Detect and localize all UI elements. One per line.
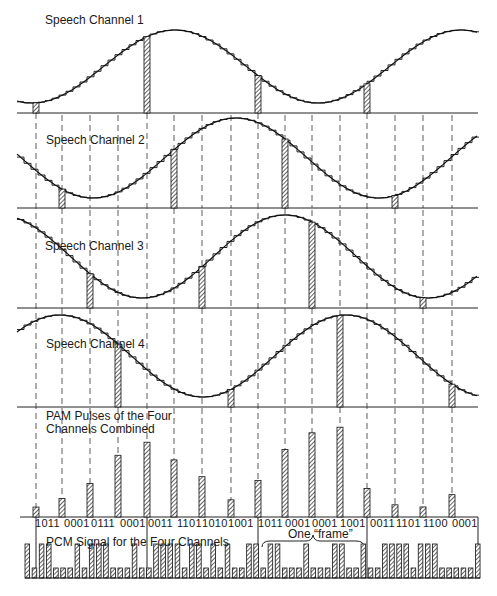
pcm-bit xyxy=(275,544,280,578)
pam-pulse xyxy=(364,488,370,517)
sample-pulse xyxy=(59,189,65,208)
sample-pulse xyxy=(449,384,455,407)
pam-pulse xyxy=(282,449,288,517)
pcm-bit xyxy=(468,568,473,578)
pcm-code-label: 1001 xyxy=(340,517,366,529)
pcm-bit xyxy=(104,544,109,578)
pcm-bit xyxy=(61,568,66,578)
pcm-bit xyxy=(404,544,409,578)
staircase-channel-3 xyxy=(17,215,479,298)
pam-pulse xyxy=(144,442,150,517)
sample-pulse xyxy=(392,196,398,208)
pcm-bit xyxy=(204,568,209,578)
pcm-bit xyxy=(139,568,144,578)
pam-pulse xyxy=(255,480,261,517)
pam-pulse xyxy=(228,500,234,517)
sample-pulse xyxy=(255,76,261,113)
pcm-code-label: 0001 xyxy=(312,517,338,529)
pcm-code-label: 1011 xyxy=(258,517,283,529)
sample-pulse xyxy=(33,103,39,113)
pcm-bit xyxy=(225,544,230,578)
pcm-bit xyxy=(218,568,223,578)
pcm-code-label: 0001 xyxy=(452,517,478,529)
pcm-bit xyxy=(297,568,302,578)
pcm-bits xyxy=(25,544,480,578)
pcm-bit xyxy=(82,568,87,578)
sample-pulse xyxy=(228,389,234,407)
pcm-bit xyxy=(340,544,345,578)
pcm-code-label: 0001 xyxy=(64,517,90,529)
pcm-code-label: 0111 xyxy=(91,517,115,529)
staircase-channel-4 xyxy=(17,315,479,397)
sample-pulse xyxy=(144,37,150,113)
pcm-bit xyxy=(368,568,373,578)
pcm-code-label: 1100 xyxy=(423,517,448,529)
pcm-code-label: 1011 xyxy=(35,517,60,529)
pcm-bit xyxy=(325,568,330,578)
pcm-bit xyxy=(282,568,287,578)
tdm-diagram xyxy=(0,0,497,596)
pcm-bit xyxy=(440,568,445,578)
sample-pulse xyxy=(364,84,370,113)
pam-pulse xyxy=(392,505,398,517)
pcm-bit xyxy=(75,544,80,578)
pcm-bit xyxy=(97,544,102,578)
pcm-bit xyxy=(304,544,309,578)
pcm-bit xyxy=(232,568,237,578)
sample-pulse xyxy=(337,315,343,407)
pcm-bit xyxy=(397,544,402,578)
frame-label: One “frame” xyxy=(288,528,353,541)
pcm-bit xyxy=(318,568,323,578)
pcm-code-label: 0001 xyxy=(285,517,311,529)
pcm-bit xyxy=(118,568,123,578)
pcm-code-label: 1101 xyxy=(177,517,202,529)
sample-pulse xyxy=(171,150,177,208)
pcm-bit xyxy=(240,568,245,578)
pcm-bit xyxy=(25,544,30,578)
pcm-bit xyxy=(411,568,416,578)
pcm-bit xyxy=(261,568,266,578)
pcm-bit xyxy=(68,568,73,578)
pcm-bit xyxy=(390,544,395,578)
sample-pulse xyxy=(309,222,315,308)
pcm-bit xyxy=(254,544,259,578)
pcm-bit xyxy=(461,568,466,578)
pcm-bit xyxy=(311,568,316,578)
pam-pulse xyxy=(337,427,343,517)
pcm-code-label: 0011 xyxy=(370,517,395,529)
pcm-bit xyxy=(268,544,273,578)
pcm-code-label: 1101 xyxy=(396,517,421,529)
sample-pulse xyxy=(420,298,426,308)
pam-pulse xyxy=(309,433,315,517)
panel-label-channel-1: Speech Channel 1 xyxy=(45,14,144,27)
pcm-bit xyxy=(418,544,423,578)
sample-pulses xyxy=(33,37,455,407)
pcm-bit xyxy=(447,568,452,578)
pam-pulse xyxy=(449,495,455,517)
pam-pulses xyxy=(33,427,455,517)
pam-pulse xyxy=(59,498,65,517)
pcm-code-label: 1010 xyxy=(202,517,228,529)
pcm-bit xyxy=(168,544,173,578)
pcm-bit xyxy=(454,568,459,578)
pam-pulse xyxy=(199,477,205,517)
pcm-code-label: 0011 xyxy=(148,517,173,529)
pcm-code-label: 0001 xyxy=(120,517,146,529)
pcm-bit xyxy=(347,568,352,578)
staircase-channel-2 xyxy=(17,118,479,198)
pcm-bit xyxy=(197,544,202,578)
panel-label-channel-4: Speech Channel 4 xyxy=(46,338,145,351)
pcm-bit xyxy=(175,544,180,578)
panel-label-channel-2: Speech Channel 2 xyxy=(46,134,145,147)
sample-pulse xyxy=(199,267,205,308)
pcm-bit xyxy=(46,544,51,578)
sample-pulse xyxy=(282,139,288,208)
pcm-bit xyxy=(32,568,37,578)
pcm-bit xyxy=(111,568,116,578)
pcm-bit xyxy=(433,544,438,578)
pcm-code-label: 1001 xyxy=(228,517,254,529)
panel-label-channel-3: Speech Channel 3 xyxy=(45,240,144,253)
pcm-bit xyxy=(425,544,430,578)
pam-label-line-2: Channels Combined xyxy=(46,423,155,436)
pcm-bit xyxy=(54,568,59,578)
